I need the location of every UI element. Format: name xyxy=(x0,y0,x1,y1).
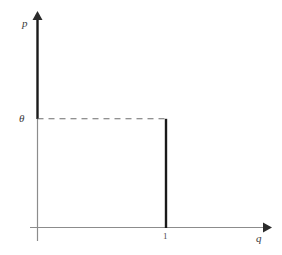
x-axis-arrowhead-icon xyxy=(263,223,272,233)
x-tick-label-one: 1 xyxy=(163,232,168,241)
y-axis-arrowhead-icon xyxy=(33,11,43,20)
x-axis-label: q xyxy=(256,233,262,244)
plot-canvas xyxy=(0,0,282,255)
step-demand-figure: p q θ 1 xyxy=(0,0,282,255)
y-axis-label: p xyxy=(22,18,28,29)
y-tick-label-theta: θ xyxy=(19,113,24,124)
